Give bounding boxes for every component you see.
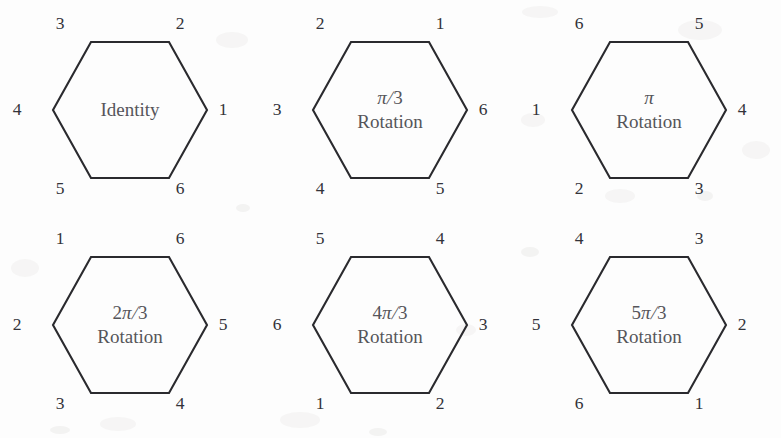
vertex-label-right: 2	[729, 316, 755, 334]
vertex-label-bottom-left: 4	[307, 180, 333, 198]
vertex-label-top-left: 1	[47, 230, 73, 248]
vertex-label-left: 1	[523, 101, 549, 119]
vertex-label-top-left: 3	[47, 15, 73, 33]
hexagon-symmetry-figure: Identity 3 2 1 6 5 4 π/3 Rotation 2 1 6 …	[0, 0, 781, 438]
vertex-label-top-left: 2	[307, 15, 333, 33]
vertex-label-left: 5	[523, 316, 549, 334]
vertex-label-bottom-left: 6	[566, 395, 592, 413]
vertex-label-right: 5	[210, 316, 236, 334]
vertex-label-bottom-right: 2	[427, 395, 453, 413]
vertex-label-right: 6	[470, 101, 496, 119]
vertex-label-top-right: 4	[427, 230, 453, 248]
vertex-label-left: 4	[4, 101, 30, 119]
hexagon-identity: Identity 3 2 1 6 5 4	[0, 0, 260, 219]
vertex-label-top-left: 5	[307, 230, 333, 248]
vertex-label-bottom-right: 6	[167, 180, 193, 198]
vertex-label-top-left: 4	[566, 230, 592, 248]
vertex-label-left: 2	[4, 316, 30, 334]
vertex-label-bottom-right: 1	[686, 395, 712, 413]
vertex-label-left: 3	[264, 101, 290, 119]
vertex-label-bottom-left: 3	[47, 395, 73, 413]
hexagon-five-pi-over-3-rotation: 5π/3 Rotation 4 3 2 1 6 5	[519, 215, 779, 434]
vertex-label-top-right: 2	[167, 15, 193, 33]
vertex-label-bottom-right: 5	[427, 180, 453, 198]
vertex-label-bottom-right: 3	[686, 180, 712, 198]
hexagon-two-pi-over-3-rotation: 2π/3 Rotation 1 6 5 4 3 2	[0, 215, 260, 434]
vertex-label-top-right: 6	[167, 230, 193, 248]
vertex-label-top-left: 6	[566, 15, 592, 33]
hexagon-pi-rotation: π Rotation 6 5 4 3 2 1	[519, 0, 779, 219]
vertex-label-bottom-right: 4	[167, 395, 193, 413]
hexagon-pi-over-3-rotation: π/3 Rotation 2 1 6 5 4 3	[260, 0, 520, 219]
vertex-label-right: 4	[729, 101, 755, 119]
vertex-label-left: 6	[264, 316, 290, 334]
hexagon-four-pi-over-3-rotation: 4π/3 Rotation 5 4 3 2 1 6	[260, 215, 520, 434]
vertex-label-bottom-left: 2	[566, 180, 592, 198]
vertex-label-right: 3	[470, 316, 496, 334]
vertex-label-bottom-left: 1	[307, 395, 333, 413]
vertex-label-top-right: 1	[427, 15, 453, 33]
vertex-label-right: 1	[210, 101, 236, 119]
vertex-label-top-right: 3	[686, 230, 712, 248]
vertex-label-top-right: 5	[686, 15, 712, 33]
vertex-label-bottom-left: 5	[47, 180, 73, 198]
